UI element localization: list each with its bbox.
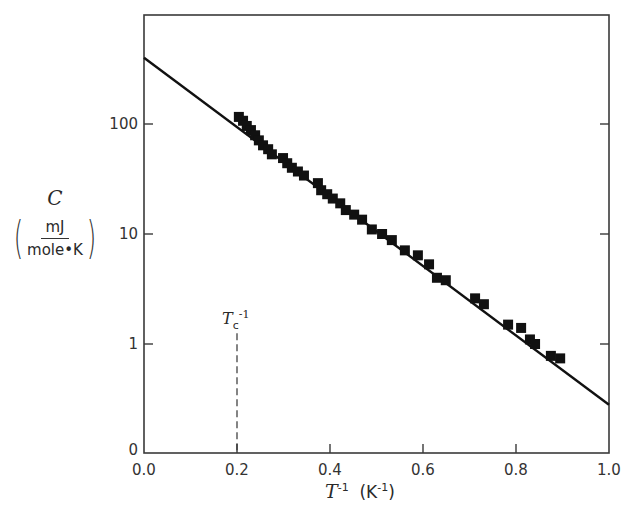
- y-axis-unit: ( mJ mole•K ): [10, 216, 100, 260]
- y-tick-label: 1: [128, 335, 138, 353]
- y-tick-label: 100: [109, 115, 138, 133]
- x-axis-exp: -1: [338, 481, 349, 494]
- x-tick-label: 0.6: [411, 461, 435, 479]
- tc-annotation-label: Tc-1: [222, 308, 249, 332]
- x-axis-unit-exp: -1: [377, 481, 388, 494]
- data-point: [432, 273, 442, 283]
- data-point: [479, 299, 489, 309]
- data-point: [516, 323, 526, 333]
- unit-denominator: mole•K: [27, 239, 83, 259]
- x-axis-ticks: 0.00.20.40.60.81.0: [132, 444, 621, 479]
- x-tick-label: 0.0: [132, 461, 156, 479]
- data-point: [503, 320, 513, 330]
- data-point: [546, 351, 556, 361]
- data-point: [424, 259, 434, 269]
- data-point: [377, 229, 387, 239]
- left-paren: (: [14, 216, 23, 260]
- data-point: [387, 235, 397, 245]
- data-point: [400, 245, 410, 255]
- right-paren: ): [87, 216, 96, 260]
- data-point: [441, 275, 451, 285]
- unit-fraction: mJ mole•K: [27, 218, 83, 259]
- x-axis-unit-open: (K: [359, 482, 377, 502]
- y-tick-label: 0: [128, 441, 138, 459]
- y-tick-label: 10: [119, 225, 138, 243]
- x-axis-label: T-1 (K-1): [325, 480, 395, 502]
- x-tick-label: 0.4: [318, 461, 342, 479]
- data-points: [234, 112, 565, 363]
- x-tick-label: 0.2: [225, 461, 249, 479]
- unit-numerator: mJ: [41, 218, 68, 239]
- y-axis-label: C ( mJ mole•K ): [0, 186, 110, 260]
- y-axis-ticks: 0110100: [109, 115, 609, 459]
- data-point: [267, 149, 277, 159]
- y-axis-symbol: C: [0, 186, 110, 210]
- data-point: [413, 250, 423, 260]
- data-point: [357, 215, 367, 225]
- tc-symbol: T: [222, 309, 233, 328]
- data-point: [555, 353, 565, 363]
- data-point: [470, 293, 480, 303]
- data-point: [299, 171, 309, 181]
- x-axis-unit-close: ): [388, 482, 395, 502]
- data-point: [367, 224, 377, 234]
- x-tick-label: 0.8: [504, 461, 528, 479]
- x-tick-label: 1.0: [597, 461, 621, 479]
- x-axis-symbol: T: [325, 480, 338, 502]
- data-point: [530, 339, 540, 349]
- tc-superscript: -1: [239, 308, 250, 321]
